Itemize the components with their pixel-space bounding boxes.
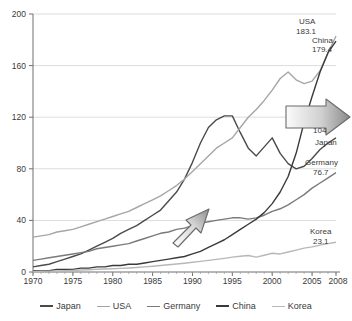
series-line-germany [33,173,336,261]
legend-label: China [232,301,256,311]
legend-item-usa[interactable]: USA [97,301,132,311]
x-tick-1975: 1975 [63,276,82,286]
legend-label: USA [113,301,132,311]
x-tick-2008: 2008 [329,276,348,286]
x-tick-2000: 2000 [263,276,282,286]
legend-swatch-germany-icon [147,306,160,307]
legend-label: Korea [288,301,312,311]
x-tick-1970: 1970 [24,276,43,286]
legend-swatch-korea-icon [272,306,285,307]
chart-legend: JapanUSAGermanyChinaKorea [0,293,352,319]
series-line-usa [33,36,336,237]
legend-swatch-china-icon [216,305,229,307]
label-china-name: China [312,36,333,45]
x-tick-1980: 1980 [103,276,122,286]
legend-item-germany[interactable]: Germany [147,301,200,311]
line-chart: 200 160 120 80 40 0 1970 1975 1980 1985 … [0,0,352,321]
legend-label: Japan [56,301,81,311]
legend-label: Germany [163,301,200,311]
legend-swatch-usa-icon [97,306,110,307]
legend-item-japan[interactable]: Japan [40,301,81,311]
series-line-japan [33,116,336,267]
y-tick-40: 40 [17,215,27,225]
x-tick-labels: 1970 1975 1980 1985 1990 1995 2000 2005 … [24,276,348,286]
label-korea-value: 23.1 [313,237,329,246]
label-usa-name: USA [299,17,316,26]
x-tick-2005: 2005 [303,276,322,286]
x-tick-1985: 1985 [143,276,162,286]
y-tick-200: 200 [12,9,26,19]
arrow-diagonal-icon [173,209,209,247]
y-tick-80: 80 [17,164,27,174]
x-tick-1995: 1995 [223,276,242,286]
y-tick-marks [29,14,33,272]
legend-item-china[interactable]: China [216,301,256,311]
y-tick-160: 160 [12,61,26,71]
label-korea-name: Korea [310,227,332,236]
label-china-value: 179.4 [312,45,333,54]
label-germany-name: Germany [305,158,338,167]
label-japan-value: 104 [313,126,327,135]
y-tick-120: 120 [12,112,26,122]
legend-swatch-japan-icon [40,305,53,307]
label-usa-value: 183.1 [296,27,317,36]
label-japan-name: Japan [315,138,337,147]
label-germany-value: 76.7 [313,168,329,177]
chart-canvas: 200 160 120 80 40 0 1970 1975 1980 1985 … [0,0,352,321]
legend-item-korea[interactable]: Korea [272,301,312,311]
x-tick-1990: 1990 [183,276,202,286]
y-tick-labels: 200 160 120 80 40 0 [12,9,26,277]
